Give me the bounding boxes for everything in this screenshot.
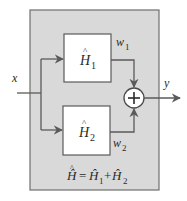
svg-text:2: 2 (123, 176, 128, 186)
svg-text:Ĥ: Ĥ (66, 168, 77, 183)
output-label-y: y (163, 76, 170, 90)
svg-text:2: 2 (90, 132, 95, 143)
svg-text:w: w (116, 35, 124, 49)
equation-label: ^ Ĥ = Ĥ 1 + Ĥ 2 (66, 164, 128, 186)
svg-text:=: = (79, 168, 86, 183)
svg-text:+: + (104, 168, 111, 183)
svg-text:w: w (113, 136, 121, 150)
svg-text:1: 1 (99, 176, 104, 186)
svg-text:2: 2 (122, 143, 127, 153)
svg-text:Ĥ: Ĥ (111, 168, 122, 183)
svg-text:1: 1 (91, 60, 96, 71)
input-label-x: x (11, 71, 18, 85)
svg-text:Ĥ: Ĥ (88, 168, 99, 183)
parallel-system-diagram: x y H ^ 1 H ^ 2 w 1 w 2 ^ Ĥ = Ĥ 1 + Ĥ 2 (0, 0, 187, 201)
svg-text:1: 1 (125, 42, 130, 52)
